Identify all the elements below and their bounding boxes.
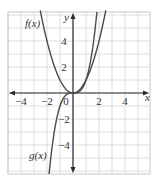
x-tick-label: −2 [41,95,53,107]
x-tick-label: 4 [122,95,128,107]
g-curve-label: g(x) [29,149,47,162]
y-tick-label: 4 [61,35,67,47]
y-axis-label: y [63,11,69,23]
x-axis-label: x [144,91,150,103]
x-axis-arrow-left-icon [9,91,15,96]
f-curve-label: f(x) [25,17,41,30]
y-axis-arrow-down-icon [71,167,76,173]
y-axis-arrow-up-icon [71,13,76,19]
y-tick-label: −4 [58,139,70,151]
function-graph: −4−2024−4−224 x y f(x) g(x) [0,0,158,184]
y-tick-label: 2 [61,61,67,73]
x-tick-label: −4 [15,95,27,107]
x-tick-label: 2 [96,95,102,107]
x-tick-label: 0 [63,95,69,107]
y-tick-label: −2 [58,113,70,125]
